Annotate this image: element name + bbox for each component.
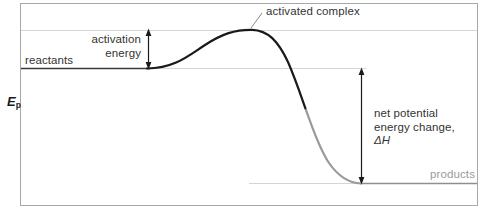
enthalpy-change-line-2: energy change, [374,121,455,133]
y-axis-subscript: p [16,100,21,110]
activated-complex-label: activated complex [266,5,360,19]
potential-energy-diagram: Ep reactants products activated complex … [0,0,485,215]
activation-energy-label: activationenergy [52,33,141,60]
enthalpy-change-label: net potentialenergy change,ΔH [374,107,455,148]
activation-energy-arrow [146,29,152,70]
y-axis-label: Ep [7,94,21,109]
enthalpy-change-arrow [359,68,365,185]
y-axis-symbol: E [7,94,16,109]
activation-energy-line-2: energy [105,47,141,59]
activation-energy-line-1: activation [91,33,141,45]
reaction-curve-light-segment [306,110,361,184]
reaction-curve-dark-segment [147,30,306,110]
products-label: products [385,168,475,182]
activated-complex-leader-line [251,13,262,28]
enthalpy-change-line-1: net potential [374,107,438,119]
enthalpy-change-symbol: ΔH [374,134,390,146]
